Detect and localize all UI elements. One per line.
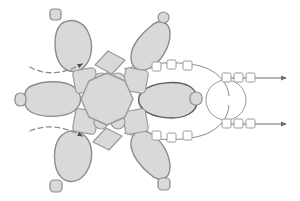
output-bead-group bbox=[222, 73, 255, 128]
lobe-lower-left bbox=[55, 131, 92, 182]
lobe-right bbox=[139, 83, 198, 118]
cap-upper-right bbox=[158, 12, 169, 23]
cap-upper-left bbox=[50, 9, 61, 20]
radial-schematic-svg bbox=[0, 0, 300, 201]
lobe-lower-right bbox=[131, 131, 170, 179]
output-bead-lower-3 bbox=[246, 119, 255, 128]
output-bead-lower-1 bbox=[222, 119, 231, 128]
output-bead-upper-1 bbox=[222, 73, 231, 82]
bead-upper-1 bbox=[152, 62, 161, 71]
output-arrow-group bbox=[222, 78, 286, 124]
bead-upper-3 bbox=[183, 61, 192, 70]
output-bead-lower-2 bbox=[234, 119, 243, 128]
bead-lower-2 bbox=[167, 133, 176, 142]
bead-upper-2 bbox=[167, 60, 176, 69]
core-node bbox=[81, 73, 133, 125]
diagram-canvas bbox=[0, 0, 300, 201]
bead-lower-1 bbox=[152, 131, 161, 140]
inner-diamond-top bbox=[95, 51, 125, 74]
inner-diamond-bottom bbox=[93, 128, 122, 150]
output-bead-upper-3 bbox=[246, 73, 255, 82]
lobe-upper-left bbox=[55, 21, 92, 72]
cap-lower-left bbox=[50, 180, 62, 192]
cap-right bbox=[190, 92, 202, 105]
cap-lower-right bbox=[158, 178, 170, 190]
output-bead-upper-2 bbox=[234, 73, 243, 82]
bead-lower-3 bbox=[183, 131, 192, 140]
lobe-left bbox=[24, 82, 80, 117]
cap-left bbox=[15, 93, 26, 106]
